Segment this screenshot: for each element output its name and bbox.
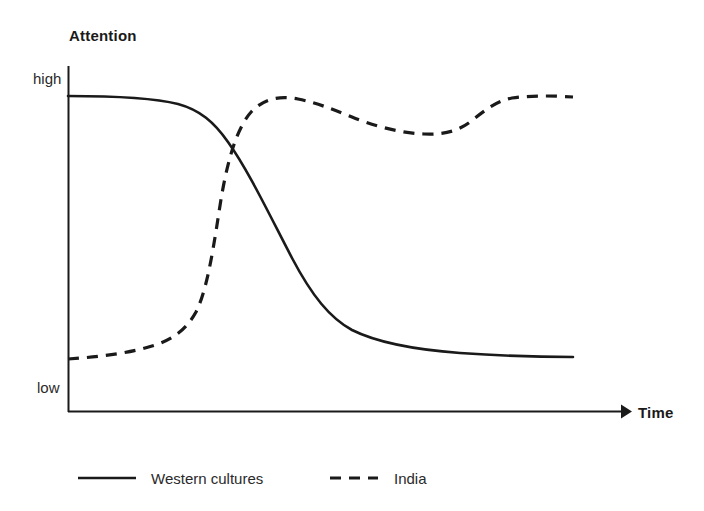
y-tick-label-low: low	[37, 379, 60, 396]
legend-label-western-cultures: Western cultures	[151, 470, 263, 487]
legend-label-india: India	[394, 470, 427, 487]
chart-canvas	[0, 0, 704, 511]
x-axis-title: Time	[638, 404, 674, 421]
y-tick-label-high: high	[33, 70, 61, 87]
series-line-india	[68, 96, 573, 359]
series-line-western-cultures	[68, 96, 573, 357]
chart-figure: Attention Time high low Western cultures…	[0, 0, 704, 511]
y-axis-title: Attention	[69, 27, 137, 44]
x-axis-arrow-icon	[621, 405, 632, 419]
